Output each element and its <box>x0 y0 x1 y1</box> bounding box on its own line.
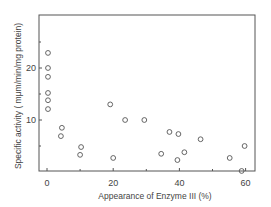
data-point <box>176 132 181 137</box>
scatter-chart: 0204060 1020 Appearance of Enzyme III (%… <box>0 0 271 207</box>
plot-frame <box>39 15 255 171</box>
x-tick-label: 60 <box>241 178 251 188</box>
data-point <box>59 134 64 139</box>
y-axis-title: Specific activity ( mμm/min/mg protein) <box>13 23 23 169</box>
data-point <box>175 158 180 163</box>
data-point <box>46 107 51 112</box>
data-points <box>46 51 247 174</box>
x-tick-label: 40 <box>174 178 184 188</box>
data-point <box>242 144 247 149</box>
data-point <box>46 98 51 103</box>
x-axis-title: Appearance of Enzyme III (%) <box>98 191 212 201</box>
data-point <box>46 74 51 79</box>
data-point <box>167 130 172 135</box>
x-tick-label: 20 <box>108 178 118 188</box>
data-point <box>46 91 51 96</box>
data-point <box>108 102 113 107</box>
data-point <box>142 118 147 123</box>
data-point <box>182 150 187 155</box>
data-point <box>46 66 51 71</box>
data-point <box>79 145 84 150</box>
data-point <box>46 51 51 56</box>
data-point <box>78 152 83 157</box>
y-axis-tick-labels: 1020 <box>26 63 36 125</box>
data-point <box>123 118 128 123</box>
y-tick-label: 20 <box>26 63 36 73</box>
x-axis-tick-labels: 0204060 <box>44 178 250 188</box>
data-point <box>111 156 116 161</box>
data-point <box>227 156 232 161</box>
data-point <box>59 125 64 130</box>
x-tick-label: 0 <box>44 178 49 188</box>
data-point <box>159 151 164 156</box>
y-tick-label: 10 <box>26 115 36 125</box>
data-point <box>198 137 203 142</box>
